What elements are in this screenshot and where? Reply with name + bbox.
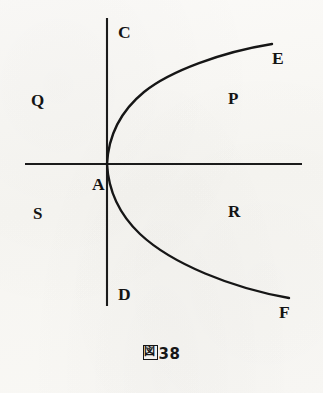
region-label-p: P: [228, 90, 239, 107]
figure-38: A C D E F Q P S R 図38: [0, 0, 323, 393]
point-label-c: C: [118, 24, 131, 42]
region-label-r: R: [228, 203, 240, 220]
point-label-a: A: [92, 176, 105, 194]
point-label-f: F: [279, 304, 290, 322]
figure-caption-glyph: 図: [143, 345, 158, 360]
figure-caption: 図38: [0, 345, 323, 363]
region-label-q: Q: [31, 92, 44, 109]
point-label-d: D: [118, 286, 131, 304]
parabola-upper-branch: [107, 44, 272, 164]
region-label-s: S: [33, 205, 43, 222]
point-label-e: E: [272, 50, 284, 68]
parabola-lower-branch: [107, 164, 289, 298]
figure-caption-number: 38: [159, 345, 181, 363]
